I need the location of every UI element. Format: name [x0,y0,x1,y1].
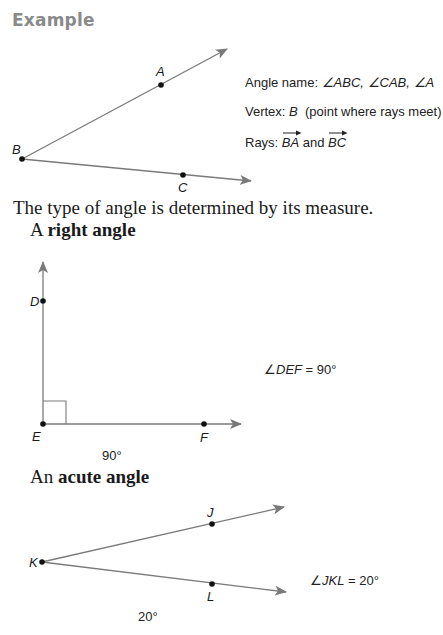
angle-value: = 20° [344,573,378,588]
acute-angle-equation: ∠JKL = 20° [310,573,379,588]
rays-and: and [299,135,328,150]
point-e [40,421,46,427]
label-d: D [30,294,39,309]
ray-kj [42,507,284,562]
point-j [209,521,215,527]
intro-text: The type of angle is determined by its m… [13,197,373,219]
angle-name-label: Angle name: [245,75,322,90]
right-angle-equation: ∠DEF = 90° [264,362,336,377]
vertex-note: (point where rays meet) [305,104,442,119]
angle-name: JKL [321,573,344,588]
acute-angle-title: An acute angle [30,466,149,488]
ray-bc-label: BC [328,135,346,150]
angle-symbol: ∠ [264,362,276,377]
right-angle-measure: 90° [102,448,122,463]
point-k [39,559,45,565]
acute-angle-title-prefix: An [30,466,58,487]
acute-angle-measure: 20° [138,609,158,624]
point-c [180,172,186,178]
label-l: L [207,589,214,604]
point-b [19,156,25,162]
ray-kl [42,562,286,592]
label-c: C [178,180,188,195]
angle-name: DEF [276,362,303,377]
rays-line: Rays: BA and BC [245,135,346,150]
point-d [40,298,46,304]
angle-name-line: Angle name: ∠ABC, ∠CAB, ∠A [245,75,434,90]
point-l [209,581,215,587]
ray-ba-label: BA [282,135,299,150]
rays-label: Rays: [245,135,282,150]
acute-angle-diagram: J K L 20° ∠JKL = 20° [29,505,379,624]
point-f [201,421,207,427]
angle-symbol: ∠ [310,573,322,588]
right-angle-title: A right angle [30,219,136,241]
right-angle-diagram: D E F 90° ∠DEF = 90° [30,262,336,463]
right-angle-title-bold: right angle [47,219,135,240]
example-angle-diagram: A B C [12,49,251,195]
page: Example A B C D E F [0,0,443,635]
angle-value: = 90° [302,362,336,377]
ray-ba [22,49,227,159]
label-f: F [200,430,209,445]
ray-bc [22,159,251,181]
angle-diagrams: A B C D E F 90° ∠DEF = 90° [0,0,443,635]
right-angle-marker [43,401,66,424]
label-k: K [29,555,39,570]
vector-arrow-icon [282,130,302,136]
right-angle-title-prefix: A [30,219,47,240]
label-j: J [206,505,214,520]
label-e: E [32,429,41,444]
acute-angle-title-bold: acute angle [58,466,149,487]
point-a [158,82,164,88]
label-b: B [12,142,21,157]
vector-arrow-icon [328,130,348,136]
vertex-label: Vertex: [245,104,289,119]
label-a: A [155,64,165,79]
vertex-line: Vertex: B (point where rays meet) [245,104,442,119]
angle-name-values: ∠ABC, ∠CAB, ∠A [322,75,435,90]
vertex-value: B [289,104,298,119]
